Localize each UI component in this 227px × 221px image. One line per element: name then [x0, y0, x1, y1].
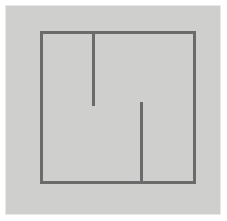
figure-root: abstract-line-drawing Grey square panel … — [0, 0, 227, 221]
figure-canvas — [0, 0, 227, 221]
